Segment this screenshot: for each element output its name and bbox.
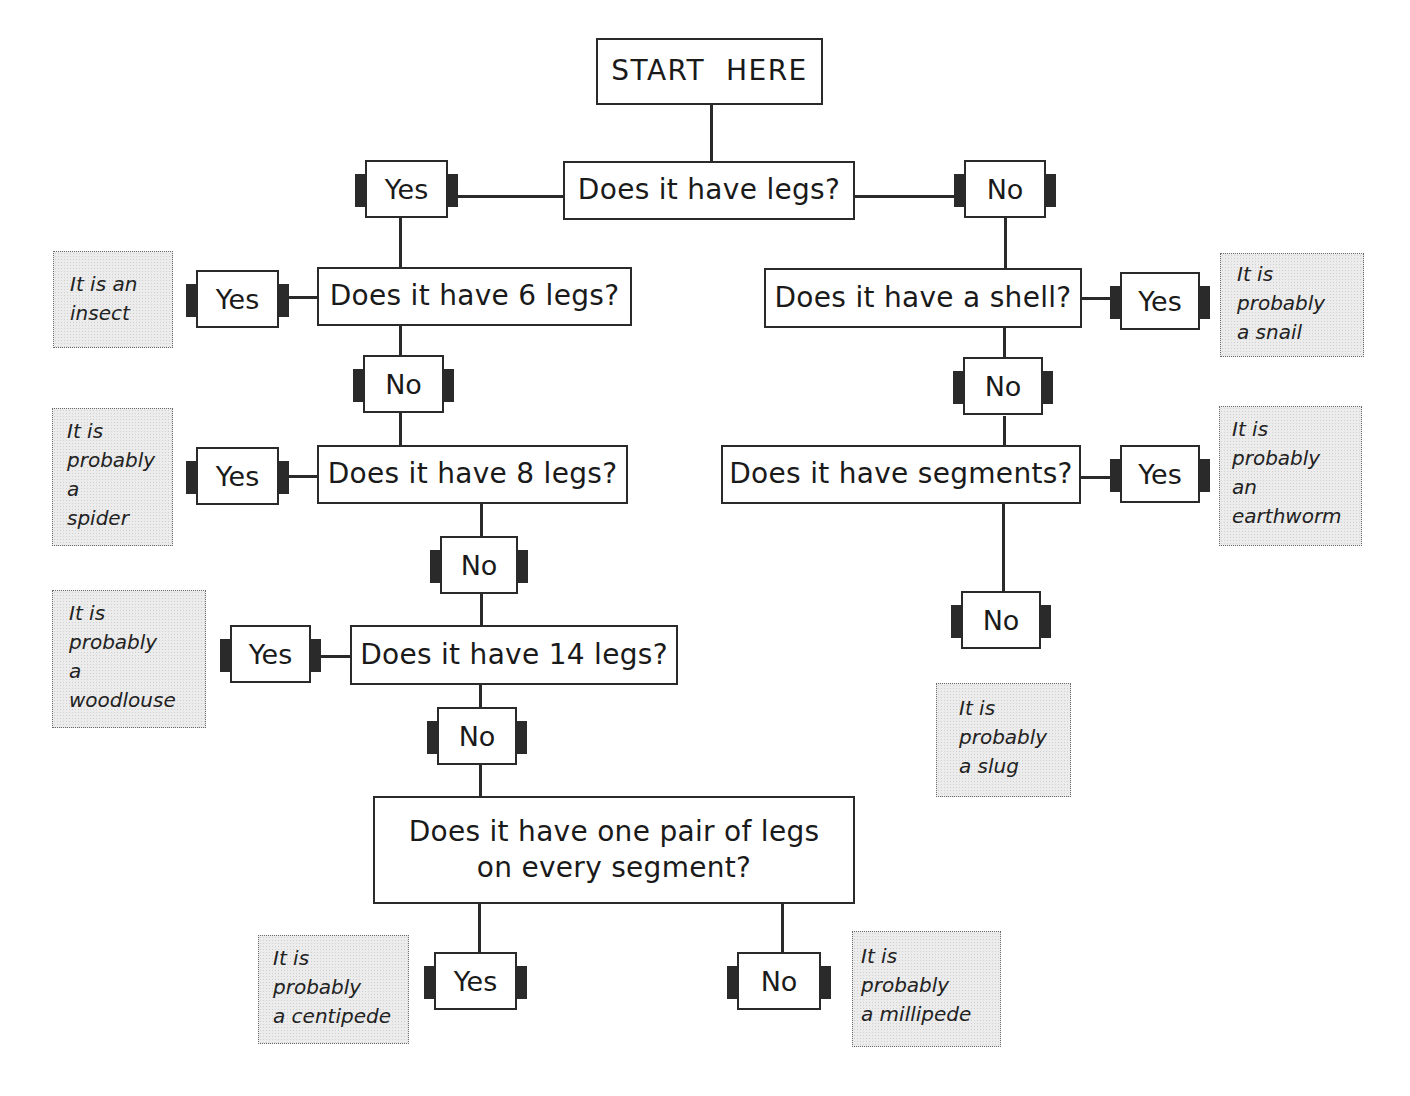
answer-label: No [983, 605, 1020, 636]
result-woodlouse: It is probably a woodlouse [52, 590, 206, 728]
question-segments: Does it have segments? [721, 445, 1081, 504]
connector [479, 765, 482, 797]
question-text: Does it have one pair of legs on every s… [387, 814, 841, 887]
question-text: Does it have legs? [578, 172, 840, 208]
answer-label: No [761, 966, 798, 997]
connector [480, 594, 483, 626]
start-label: START HERE [611, 53, 808, 89]
question-six-legs: Does it have 6 legs? [317, 267, 632, 326]
connector [478, 902, 481, 954]
result-snail: It is probably a snail [1220, 253, 1364, 357]
answer-no-pair-per-segment: No [727, 952, 831, 1010]
connector [480, 503, 483, 537]
result-earthworm: It is probably an earthworm [1219, 406, 1362, 546]
answer-yes-segments: Yes [1110, 445, 1210, 503]
connector [456, 195, 564, 198]
answer-no-segments: No [951, 591, 1051, 649]
answer-yes-fourteen-legs: Yes [220, 625, 321, 683]
answer-yes-pair-per-segment: Yes [424, 952, 527, 1010]
answer-label: No [461, 550, 498, 581]
answer-yes-eight-legs: Yes [186, 447, 289, 505]
answer-label: Yes [249, 639, 293, 670]
answer-no-legs: No [954, 160, 1056, 218]
connector [854, 195, 956, 198]
answer-label: Yes [385, 174, 429, 205]
connector [1080, 476, 1114, 479]
connector [399, 325, 402, 355]
result-slug: It is probably a slug [936, 683, 1071, 797]
question-text: Does it have 8 legs? [328, 456, 618, 492]
answer-label: No [987, 174, 1024, 205]
answer-no-fourteen-legs: No [427, 707, 527, 765]
connector [1002, 503, 1005, 593]
connector [710, 104, 713, 162]
answer-yes-legs: Yes [355, 160, 458, 218]
connector [399, 218, 402, 268]
start-box: START HERE [596, 38, 823, 105]
answer-label: Yes [216, 461, 260, 492]
answer-no-shell: No [953, 357, 1053, 415]
connector [399, 412, 402, 446]
answer-yes-shell: Yes [1110, 272, 1210, 330]
connector [1003, 416, 1006, 446]
answer-no-six-legs: No [353, 355, 454, 413]
question-fourteen-legs: Does it have 14 legs? [350, 625, 678, 685]
question-text: Does it have 6 legs? [330, 278, 620, 314]
answer-yes-six-legs: Yes [186, 270, 289, 328]
answer-label: No [459, 721, 496, 752]
question-text: Does it have segments? [729, 456, 1073, 492]
connector [479, 684, 482, 708]
connector [1081, 297, 1113, 300]
answer-no-eight-legs: No [430, 536, 528, 594]
connector [1004, 218, 1007, 268]
connector [781, 902, 784, 954]
connector [286, 296, 318, 299]
question-pair-per-segment: Does it have one pair of legs on every s… [373, 796, 855, 904]
connector [1003, 327, 1006, 359]
question-eight-legs: Does it have 8 legs? [317, 445, 628, 504]
answer-label: Yes [216, 284, 260, 315]
result-centipede: It is probably a centipede [258, 935, 409, 1044]
answer-label: Yes [1138, 459, 1182, 490]
connector [318, 655, 352, 658]
question-text: Does it have a shell? [774, 280, 1071, 316]
result-millipede: It is probably a millipede [852, 931, 1001, 1047]
question-shell: Does it have a shell? [764, 268, 1082, 328]
answer-label: No [985, 371, 1022, 402]
answer-label: Yes [1138, 286, 1182, 317]
result-insect: It is an insect [53, 251, 173, 348]
question-text: Does it have 14 legs? [360, 637, 668, 673]
answer-label: Yes [454, 966, 498, 997]
answer-label: No [385, 369, 422, 400]
question-legs: Does it have legs? [563, 161, 855, 220]
result-spider: It is probably a spider [52, 408, 173, 546]
connector [286, 475, 318, 478]
